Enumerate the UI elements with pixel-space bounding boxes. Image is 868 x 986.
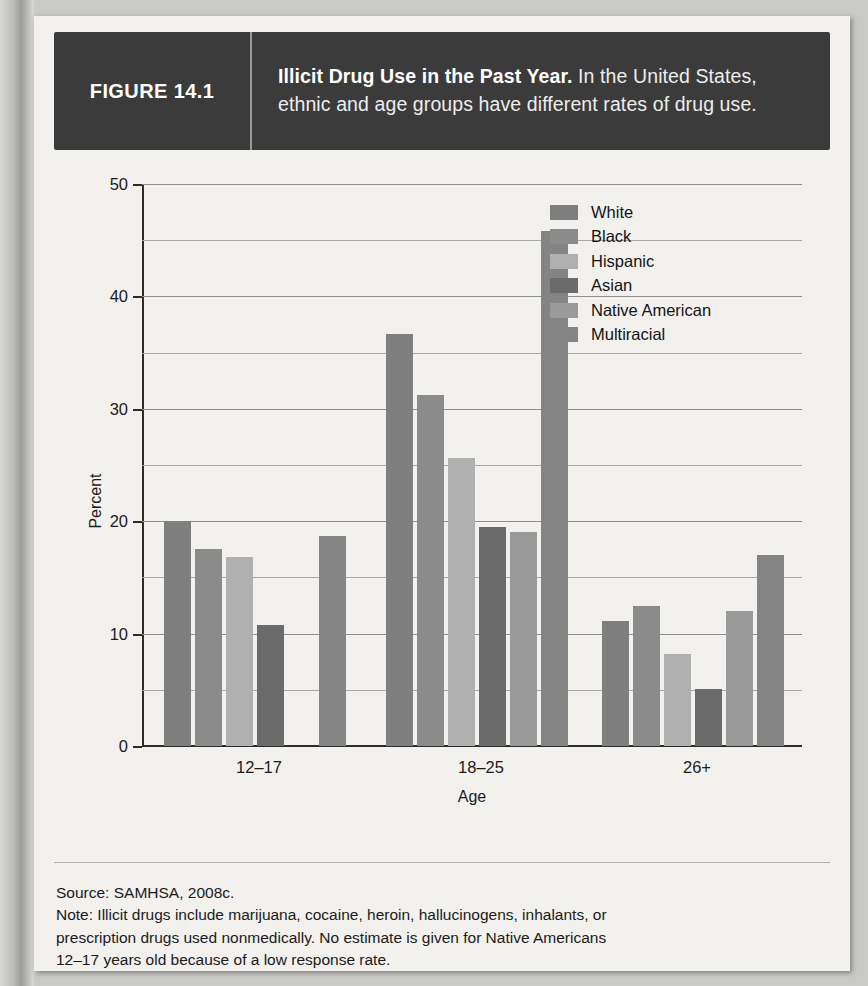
bar-black-12–17 bbox=[195, 549, 222, 746]
figure-number-cell: FIGURE 14.1 bbox=[54, 32, 252, 150]
note-line-1: Note: Illicit drugs include marijuana, c… bbox=[56, 904, 816, 926]
legend-label: Native American bbox=[591, 301, 711, 320]
bar-multiracial-26+ bbox=[757, 555, 784, 746]
legend-swatch-white bbox=[550, 205, 578, 220]
bar-slot bbox=[226, 184, 253, 746]
bar-group: 12–17 bbox=[164, 184, 354, 746]
legend-swatch-native-american bbox=[550, 303, 578, 318]
bar-black-18–25 bbox=[417, 395, 444, 746]
y-tick-mark bbox=[133, 409, 142, 411]
bar-slot bbox=[417, 184, 444, 746]
bar-white-18–25 bbox=[386, 334, 413, 747]
bar-hispanic-18–25 bbox=[448, 458, 475, 746]
bar-slot bbox=[319, 184, 346, 746]
note-line-2: prescription drugs used nonmedically. No… bbox=[56, 927, 816, 949]
y-tick-label: 40 bbox=[110, 287, 128, 306]
legend-label: Asian bbox=[591, 276, 632, 295]
bar-hispanic-26+ bbox=[664, 654, 691, 746]
y-tick-mark bbox=[133, 634, 142, 636]
bar-group: 18–25 bbox=[386, 184, 576, 746]
bar-asian-26+ bbox=[695, 689, 722, 746]
legend-item: Multiracial bbox=[550, 323, 711, 348]
bar-multiracial-12–17 bbox=[319, 536, 346, 746]
bar-slot bbox=[288, 184, 315, 746]
y-tick-label: 50 bbox=[110, 175, 128, 194]
bar-slot bbox=[164, 184, 191, 746]
legend-swatch-hispanic bbox=[550, 254, 578, 269]
legend-label: Hispanic bbox=[591, 252, 654, 271]
x-tick-label: 26+ bbox=[602, 758, 792, 777]
legend-label: Multiracial bbox=[591, 325, 665, 344]
figure-caption-cell: Illicit Drug Use in the Past Year. In th… bbox=[252, 32, 830, 150]
y-tick-mark bbox=[133, 746, 142, 748]
footer-divider bbox=[54, 862, 830, 863]
y-tick-mark bbox=[133, 184, 142, 186]
bar-slot bbox=[386, 184, 413, 746]
legend-label: Black bbox=[591, 227, 631, 246]
note-line-3: 12–17 years old because of a low respons… bbox=[56, 949, 816, 971]
legend-item: Hispanic bbox=[550, 249, 711, 274]
figure-page: FIGURE 14.1 Illicit Drug Use in the Past… bbox=[34, 16, 850, 971]
bar-slot bbox=[448, 184, 475, 746]
legend-swatch-multiracial bbox=[550, 327, 578, 342]
y-tick-label: 30 bbox=[110, 399, 128, 418]
y-tick-mark bbox=[133, 296, 142, 298]
x-tick-label: 18–25 bbox=[386, 758, 576, 777]
bar-native-american-26+ bbox=[726, 611, 753, 746]
bar-slot bbox=[757, 184, 784, 746]
figure-caption: Illicit Drug Use in the Past Year. In th… bbox=[278, 63, 808, 118]
legend-item: White bbox=[550, 200, 711, 225]
x-tick-label: 12–17 bbox=[164, 758, 354, 777]
bar-chart: Percent 01020304050 12–1718–2526+ Age Wh… bbox=[54, 156, 830, 846]
bar-hispanic-12–17 bbox=[226, 557, 253, 746]
bar-slot bbox=[257, 184, 284, 746]
y-axis-title: Percent bbox=[87, 473, 105, 528]
figure-number-label: FIGURE 14.1 bbox=[90, 80, 214, 103]
chart-legend: WhiteBlackHispanicAsianNative AmericanMu… bbox=[550, 200, 711, 347]
source-line: Source: SAMHSA, 2008c. bbox=[56, 882, 816, 904]
y-tick-label: 0 bbox=[119, 737, 128, 756]
x-axis-title: Age bbox=[142, 788, 802, 806]
bar-native-american-18–25 bbox=[510, 532, 537, 746]
bar-white-12–17 bbox=[164, 521, 191, 746]
y-tick-label: 20 bbox=[110, 512, 128, 531]
legend-item: Native American bbox=[550, 298, 711, 323]
bar-black-26+ bbox=[633, 606, 660, 747]
bar-slot bbox=[510, 184, 537, 746]
figure-caption-lead: Illicit Drug Use in the Past Year. bbox=[278, 65, 573, 87]
y-tick-label: 10 bbox=[110, 624, 128, 643]
legend-swatch-black bbox=[550, 229, 578, 244]
bar-slot bbox=[726, 184, 753, 746]
legend-item: Asian bbox=[550, 274, 711, 299]
bar-slot bbox=[479, 184, 506, 746]
legend-item: Black bbox=[550, 225, 711, 250]
legend-swatch-asian bbox=[550, 278, 578, 293]
bar-asian-18–25 bbox=[479, 527, 506, 746]
bar-white-26+ bbox=[602, 621, 629, 746]
bar-slot bbox=[195, 184, 222, 746]
bar-asian-12–17 bbox=[257, 625, 284, 746]
legend-label: White bbox=[591, 203, 633, 222]
page-binding-shadow bbox=[0, 0, 34, 986]
figure-header: FIGURE 14.1 Illicit Drug Use in the Past… bbox=[54, 32, 830, 150]
y-tick-mark bbox=[133, 521, 142, 523]
figure-footnotes: Source: SAMHSA, 2008c. Note: Illicit dru… bbox=[56, 882, 816, 972]
